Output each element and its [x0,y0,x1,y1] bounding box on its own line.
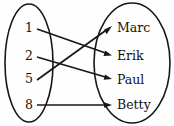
arrowhead-icon [104,74,112,79]
codomain-item-marc: Marc [117,20,150,35]
arrowhead-icon [104,26,112,34]
arrow-2-to-paul [37,57,112,80]
mapping-diagram-canvas: 1 2 5 8 Marc Erik Paul Betty [0,0,174,126]
codomain-item-erik: Erik [117,48,144,63]
domain-item-5: 5 [25,71,33,86]
arrowhead-icon [104,102,112,108]
mapping-diagram: 1 2 5 8 Marc Erik Paul Betty [0,0,174,126]
domain-item-2: 2 [25,48,33,63]
arrowhead-icon [104,51,113,56]
domain-item-1: 1 [25,20,33,35]
arrow-8-to-betty [37,102,112,108]
arrow-5-to-marc [37,26,112,80]
codomain-item-betty: Betty [117,97,152,112]
domain-item-8: 8 [25,97,33,112]
codomain-item-paul: Paul [117,72,144,87]
